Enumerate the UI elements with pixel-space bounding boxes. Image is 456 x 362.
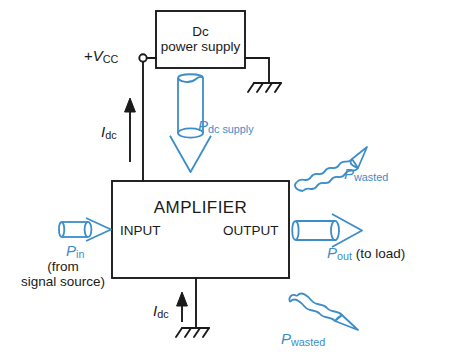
vcc-label: +VCC: [84, 48, 118, 65]
vcc-symbol: V: [93, 47, 103, 64]
p-wasted-bottom-symbol: P: [281, 330, 291, 347]
idc-label-bottom: Idc: [153, 303, 169, 320]
amplifier-output-label: OUTPUT: [223, 223, 279, 238]
supply-right-lead: [245, 58, 269, 83]
ground-symbol-supply: [248, 83, 281, 92]
amplifier-power-flow-diagram: Dc power supply +VCC Idc Idc Pdc supply …: [0, 0, 456, 362]
idc-arrow-bottom: [177, 292, 188, 322]
idc-arrow-top: [125, 98, 136, 162]
p-wasted-top-symbol: P: [344, 165, 354, 182]
dc-power-supply-label: Dc power supply: [156, 24, 245, 54]
p-dc-supply-label: Pdc supply: [198, 118, 254, 135]
p-out-note: (to load): [356, 246, 406, 261]
idc-top-subscript: dc: [105, 129, 116, 141]
vcc-subscript: CC: [103, 53, 119, 65]
p-out-subscript: out: [337, 250, 352, 262]
p-in-note-line1: (from: [8, 259, 118, 274]
vcc-sign: +: [84, 47, 93, 64]
ground-symbol-amplifier: [176, 328, 209, 337]
p-in-source-note: (from signal source): [8, 259, 118, 289]
p-dc-supply-symbol: P: [198, 117, 208, 134]
p-in-symbol: P: [66, 242, 76, 259]
p-wasted-top-subscript: wasted: [354, 171, 388, 183]
p-wasted-bottom-subscript: wasted: [291, 336, 325, 348]
p-in-arrow: [59, 218, 111, 241]
p-out-arrow: [292, 214, 362, 247]
p-in-note-line2: signal source): [8, 274, 118, 289]
dc-power-supply-line2: power supply: [156, 39, 245, 54]
idc-label-top: Idc: [101, 124, 117, 141]
vcc-node-dot: [139, 54, 146, 61]
amplifier-input-label: INPUT: [120, 223, 161, 238]
dc-power-supply-line1: Dc: [156, 24, 245, 39]
p-out-label: Pout (to load): [327, 245, 405, 262]
p-in-label: Pin: [66, 243, 84, 260]
p-dc-supply-subscript: dc supply: [208, 123, 254, 135]
idc-bottom-subscript: dc: [157, 308, 168, 320]
amplifier-title: AMPLIFIER: [112, 198, 289, 217]
p-wasted-label-bottom: Pwasted: [281, 331, 325, 348]
p-wasted-label-top: Pwasted: [344, 166, 388, 183]
p-out-symbol: P: [327, 244, 337, 261]
p-wasted-bottom-arrow: [289, 293, 358, 330]
